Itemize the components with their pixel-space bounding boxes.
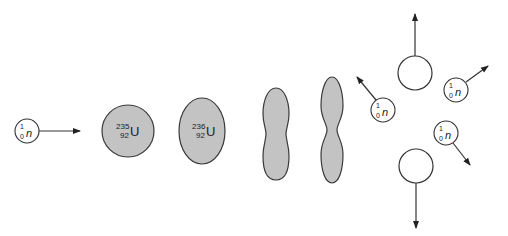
neutron-mass-number: 1: [376, 102, 380, 109]
necking-nucleus: [321, 77, 343, 183]
neutron-mass-number: 1: [449, 82, 453, 89]
u235-mass-number: 235: [116, 122, 130, 131]
uranium-235-nucleus: 235 92 U: [102, 105, 154, 157]
neutron-atomic-number: 0: [449, 92, 453, 99]
neutron-atomic-number: 0: [439, 135, 443, 142]
neutron-symbol: n: [26, 127, 32, 139]
arrow-icon: [453, 143, 470, 165]
u236-symbol: U: [206, 124, 215, 139]
neutron-symbol: n: [455, 86, 461, 98]
incoming-neutron: 1 0 n: [15, 119, 39, 143]
arrow-icon: [466, 66, 488, 82]
released-neutron-3: 1 0 n: [434, 121, 470, 165]
neutron-atomic-number: 0: [376, 112, 380, 119]
u236-atomic-number: 92: [196, 131, 205, 140]
neutron-symbol: n: [382, 106, 388, 118]
fragment-circle: [398, 56, 432, 90]
released-neutron-2: 1 0 n: [444, 66, 488, 102]
fission-fragment-top: [398, 14, 432, 90]
fission-fragment-bottom: [399, 149, 433, 228]
elongating-nucleus: [263, 88, 289, 180]
u235-symbol: U: [130, 124, 139, 139]
neutron-mass-number: 1: [439, 125, 443, 132]
neutron-atomic-number: 0: [20, 133, 24, 140]
fission-diagram: 1 0 n 235 92 U 236 92 U 1 0 n: [0, 0, 508, 236]
u235-atomic-number: 92: [120, 131, 129, 140]
u236-mass-number: 236: [192, 122, 206, 131]
released-neutron-1: 1 0 n: [357, 77, 395, 122]
neutron-symbol: n: [445, 129, 451, 141]
arrow-icon: [357, 77, 376, 100]
neutron-mass-number: 1: [20, 123, 24, 130]
uranium-236-nucleus: 236 92 U: [179, 98, 225, 164]
fragment-circle: [399, 149, 433, 183]
